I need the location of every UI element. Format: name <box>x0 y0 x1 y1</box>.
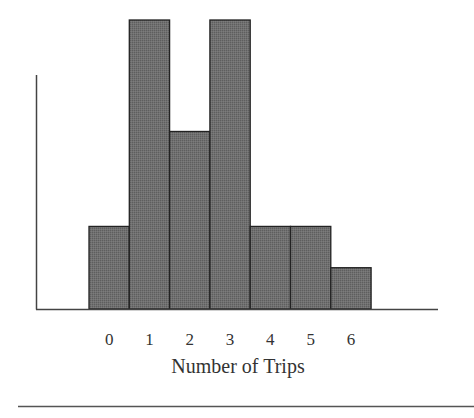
bar-2 <box>170 131 210 309</box>
bar-5 <box>291 226 331 309</box>
x-tick-labels: 0123456 <box>105 330 355 349</box>
x-axis-title: Number of Trips <box>171 355 305 378</box>
x-tick-label: 2 <box>186 330 195 349</box>
x-tick-label: 0 <box>105 330 114 349</box>
bar-1 <box>129 20 169 309</box>
x-tick-label: 6 <box>347 330 356 349</box>
bars-group <box>89 20 371 309</box>
x-tick-label: 4 <box>266 330 275 349</box>
bar-4 <box>250 226 290 309</box>
x-tick-label: 1 <box>145 330 154 349</box>
bar-6 <box>331 268 371 309</box>
bar-3 <box>210 20 250 309</box>
bar-0 <box>89 226 129 309</box>
histogram-chart: 0123456 Number of Trips <box>0 0 474 418</box>
x-tick-label: 5 <box>306 330 315 349</box>
x-tick-label: 3 <box>226 330 235 349</box>
